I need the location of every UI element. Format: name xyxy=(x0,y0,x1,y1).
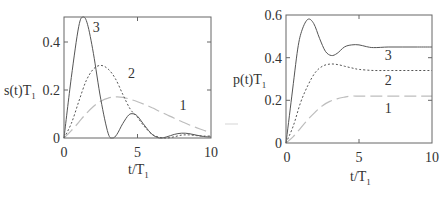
curve-1-line xyxy=(286,96,432,143)
right-ylabel: p(t)T1 xyxy=(233,72,266,90)
right-xtick-0: 0 xyxy=(284,150,291,165)
left-ticks xyxy=(64,17,211,138)
right-xtick-5: 5 xyxy=(356,150,363,165)
right-ytick-0.2: 0.2 xyxy=(265,93,283,108)
left-xlabel: t/T1 xyxy=(128,162,149,180)
left-ytick-0.2: 0.2 xyxy=(43,83,61,98)
left-curve-label-3: 3 xyxy=(93,20,100,35)
left-xtick-5: 5 xyxy=(134,145,141,160)
right-axes-frame xyxy=(286,15,432,143)
curve-3-line xyxy=(64,17,211,138)
curve-2-line xyxy=(286,64,432,143)
left-curve-label-1: 1 xyxy=(180,98,187,113)
right-ytick-0.4: 0.4 xyxy=(265,51,283,66)
left-ytick-0.4: 0.4 xyxy=(43,35,61,50)
right-curve-label-2: 2 xyxy=(385,73,392,88)
right-xtick-10: 10 xyxy=(425,150,439,165)
left-plot-area xyxy=(64,17,211,138)
left-chart: 0 0.2 0.4 0 5 10 s(t)T1 t/T1 1 2 3 xyxy=(4,17,218,180)
right-xlabel: t/T1 xyxy=(350,169,371,187)
right-curve-label-3: 3 xyxy=(385,48,392,63)
right-ytick-0.6: 0.6 xyxy=(265,8,283,23)
left-axes-frame xyxy=(64,17,211,138)
left-xtick-0: 0 xyxy=(61,145,68,160)
left-xtick-10: 10 xyxy=(204,145,218,160)
curve-3-line xyxy=(286,19,432,143)
right-curve-label-1: 1 xyxy=(385,101,392,116)
figure: 0 0.2 0.4 0 5 10 s(t)T1 t/T1 1 2 3 0 0.2… xyxy=(0,0,443,197)
left-ylabel: s(t)T1 xyxy=(4,83,36,101)
right-ytick-0: 0 xyxy=(275,136,282,151)
left-ytick-0: 0 xyxy=(53,131,60,146)
right-ticks xyxy=(286,15,432,143)
right-plot-area xyxy=(286,19,432,143)
left-curve-label-2: 2 xyxy=(128,66,135,81)
right-chart: 0 0.2 0.4 0.6 0 5 10 p(t)T1 t/T1 1 2 3 xyxy=(233,8,439,187)
